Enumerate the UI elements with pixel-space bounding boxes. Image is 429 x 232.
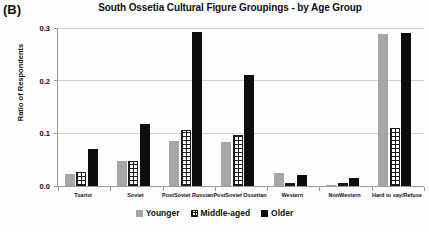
y-tick-label: 0.2 (24, 77, 50, 86)
y-tick-label: 0.3 (24, 24, 50, 33)
y-tick-label: 0.0 (24, 182, 50, 191)
bar-older (140, 124, 150, 186)
chart-title: South Ossetia Cultural Figure Groupings … (60, 2, 400, 13)
bar-group (319, 28, 371, 186)
x-category-label: NonWestern (328, 192, 360, 198)
x-tick-mark (319, 187, 320, 191)
bar-younger (65, 174, 75, 186)
bar-older (192, 32, 202, 186)
panel-label: (B) (3, 2, 21, 17)
x-tick-mark (215, 187, 216, 191)
legend-label: Middle-aged (201, 208, 251, 218)
chart-legend: YoungerMiddle-agedOlder (0, 208, 429, 218)
bar-older (244, 75, 254, 186)
bar-group (267, 28, 319, 186)
legend-item-younger[interactable]: Younger (136, 208, 180, 218)
x-tick-mark (267, 187, 268, 191)
x-category-label: PostSoviet Russian (162, 192, 213, 198)
y-tick-label: 0.1 (24, 129, 50, 138)
bar-group (110, 28, 162, 186)
x-tick-mark (58, 187, 59, 191)
bar-older (88, 149, 98, 186)
legend-item-middle[interactable]: Middle-aged (191, 208, 251, 218)
bar-middle (181, 130, 191, 186)
x-tick-mark (424, 187, 425, 191)
bar-older (297, 175, 307, 186)
legend-swatch-older-icon (261, 210, 268, 217)
x-tick-mark (163, 187, 164, 191)
x-category-label: Soviet (127, 192, 144, 198)
legend-swatch-younger-icon (136, 210, 143, 217)
bar-middle (128, 161, 138, 186)
bar-middle (338, 183, 348, 186)
bar-younger (221, 142, 231, 186)
bar-middle (76, 172, 86, 186)
x-tick-mark (372, 187, 373, 191)
bar-younger (378, 34, 388, 186)
bar-younger (169, 141, 179, 186)
bar-group (215, 28, 267, 186)
bar-older (349, 178, 359, 186)
figure-container: (B) South Ossetia Cultural Figure Groupi… (0, 0, 429, 232)
legend-label: Younger (146, 208, 180, 218)
bar-younger (274, 173, 284, 186)
legend-label: Older (271, 208, 293, 218)
bar-older (401, 33, 411, 186)
bar-middle (285, 183, 295, 186)
bar-group (372, 28, 424, 186)
x-tick-mark (110, 187, 111, 191)
legend-item-older[interactable]: Older (261, 208, 293, 218)
legend-swatch-middle-icon (191, 210, 198, 217)
plot-area (57, 28, 424, 187)
x-category-label: PostSoviet Ossetian (213, 192, 266, 198)
x-category-label: Western (281, 192, 303, 198)
x-category-label: Hard to say/Refuse (372, 192, 422, 198)
bar-younger (326, 185, 336, 186)
bar-younger (117, 161, 127, 186)
x-category-label: Tsarist (74, 192, 92, 198)
bar-middle (390, 128, 400, 186)
bar-middle (233, 135, 243, 186)
bar-group (163, 28, 215, 186)
bar-group (58, 28, 110, 186)
